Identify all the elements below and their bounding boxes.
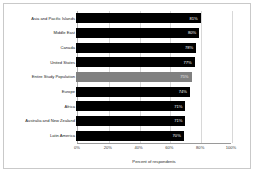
bar-value-label: 74% — [179, 89, 190, 94]
category-label: Africa — [5, 104, 76, 109]
bar-highlighted: 75% — [76, 72, 192, 82]
bar-track: 77% — [76, 55, 230, 70]
bar-value-label: 75% — [180, 74, 191, 79]
bar: 70% — [76, 131, 184, 141]
x-axis-title: Percent of respondents — [77, 159, 231, 165]
bar-track: 71% — [76, 99, 230, 114]
x-tick-label: 0% — [74, 145, 80, 151]
x-axis-ticks: 0%20%40%60%80%100% — [77, 145, 231, 153]
bar: 71% — [76, 101, 185, 111]
bar-track: 70% — [76, 128, 230, 143]
bar: 71% — [76, 116, 185, 126]
category-label: Asia and Pacific Islands — [5, 16, 76, 21]
category-label: Australia and New Zealand — [5, 118, 76, 123]
bar-track: 80% — [76, 26, 230, 41]
bar-row: Middle East80% — [0, 26, 254, 41]
bar-track: 75% — [76, 70, 230, 85]
bar-row: United States77% — [0, 55, 254, 70]
x-tick-label: 20% — [104, 145, 112, 151]
bar-chart-figure: Asia and Pacific Islands81%Middle East80… — [0, 0, 254, 178]
category-label: Latin America — [5, 133, 76, 138]
bar: 74% — [76, 87, 190, 97]
bar-value-label: 71% — [174, 104, 185, 109]
bar-row: Entire Study Population75% — [0, 70, 254, 85]
bar-value-label: 77% — [183, 60, 194, 65]
category-label: Middle East — [5, 30, 76, 35]
category-label: Canada — [5, 45, 76, 50]
category-label: United States — [5, 60, 76, 65]
bar-row: Africa71% — [0, 99, 254, 114]
bar-rows: Asia and Pacific Islands81%Middle East80… — [0, 11, 254, 143]
x-tick-label: 60% — [165, 145, 173, 151]
bar: 78% — [76, 43, 196, 53]
category-label: Europe — [5, 89, 76, 94]
x-axis-line — [77, 143, 231, 144]
bar-value-label: 81% — [190, 16, 201, 21]
x-tick-label: 40% — [134, 145, 142, 151]
bar: 77% — [76, 57, 195, 67]
bar: 80% — [76, 28, 199, 38]
bar-row: Latin America70% — [0, 128, 254, 143]
bar-track: 71% — [76, 114, 230, 129]
bar-track: 81% — [76, 11, 230, 26]
bar-value-label: 70% — [173, 133, 184, 138]
x-tick-label: 80% — [196, 145, 204, 151]
bar-track: 78% — [76, 40, 230, 55]
category-label: Entire Study Population — [5, 74, 76, 79]
bar-value-label: 78% — [185, 45, 196, 50]
bar-row: Asia and Pacific Islands81% — [0, 11, 254, 26]
bar-value-label: 71% — [174, 118, 185, 123]
bar-track: 74% — [76, 84, 230, 99]
bar-row: Canada78% — [0, 40, 254, 55]
bar-value-label: 80% — [188, 30, 199, 35]
bar: 81% — [76, 13, 201, 23]
bar-row: Australia and New Zealand71% — [0, 114, 254, 129]
x-tick-label: 100% — [226, 145, 236, 151]
bar-row: Europe74% — [0, 84, 254, 99]
